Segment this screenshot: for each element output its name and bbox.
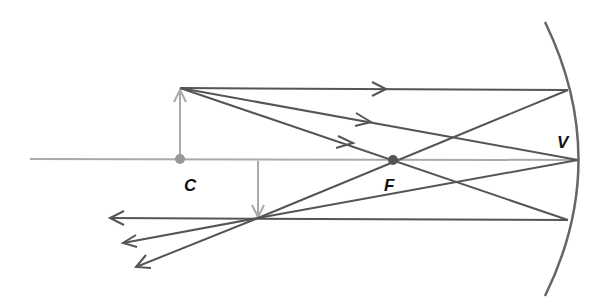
label-v: V — [557, 133, 568, 153]
ray-parallel-incident — [180, 88, 568, 90]
center-of-curvature-point — [175, 154, 185, 164]
label-c: C — [184, 176, 196, 196]
ray-parallel-reflected-ext — [136, 218, 258, 267]
ray-vertex-reflected-ext — [123, 218, 258, 243]
ray-vertex-incident — [180, 88, 578, 160]
ray-diagram — [0, 0, 608, 304]
ray-focal-reflected — [110, 218, 568, 220]
ray-parallel-reflected — [258, 90, 568, 218]
principal-axis — [30, 159, 578, 160]
ray-focal-incident — [180, 88, 568, 220]
label-f: F — [384, 176, 394, 196]
focal-point — [388, 155, 398, 165]
